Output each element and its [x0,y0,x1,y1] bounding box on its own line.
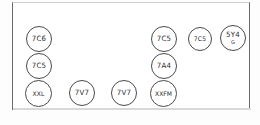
frame-bottom-shadow [13,108,251,110]
node-7c6[interactable]: 7C6 [26,26,52,52]
node-label: 5Y4 [226,31,240,38]
node-7v7-second[interactable]: 7V7 [111,80,137,106]
node-7a4[interactable]: 7A4 [151,53,177,79]
node-label: 7C5 [32,62,46,69]
node-label: 7C5 [194,36,206,42]
node-7c5-left[interactable]: 7C5 [26,53,52,79]
node-label: 7C5 [157,35,171,42]
node-label: 7V7 [117,89,131,96]
node-label: XXFM [155,90,172,96]
node-7c5-mid[interactable]: 7C5 [151,26,177,52]
node-7c5-right[interactable]: 7C5 [188,27,212,51]
node-xxfm[interactable]: XXFM [150,80,177,107]
node-label: 7V7 [75,89,89,96]
node-label: 7A4 [157,62,171,69]
node-label: XXL [32,90,44,96]
node-label: 7C6 [32,35,46,42]
diagram-canvas: 7C6 7C5 XXL 7V7 7V7 XXFM 7A4 7C5 7C5 5Y4… [0,0,260,125]
node-7v7-first[interactable]: 7V7 [69,80,95,106]
node-xxl[interactable]: XXL [25,80,52,107]
node-5y4g[interactable]: 5Y4 G [220,25,246,51]
node-sublabel: G [231,40,235,45]
